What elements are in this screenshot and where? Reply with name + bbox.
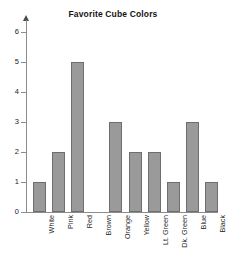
x-axis-category-label: Orange: [121, 215, 134, 271]
y-axis-tick-label: 6: [6, 28, 19, 36]
bar: [33, 182, 46, 212]
x-axis-line: [25, 212, 218, 213]
y-axis-tick-label: 1: [6, 178, 19, 186]
x-axis-category-label: Blue: [197, 215, 210, 271]
bar: [71, 62, 84, 212]
y-axis-tick: [21, 212, 26, 213]
chart-title: Favorite Cube Colors: [0, 9, 226, 19]
bar-chart: Favorite Cube Colors 0123456 WhitePinkRe…: [0, 0, 226, 275]
y-axis-tick-label: 5: [6, 58, 19, 66]
bar: [52, 152, 65, 212]
x-axis-category-label: Brown: [102, 215, 115, 271]
x-axis-category-label: Red: [83, 215, 96, 271]
x-axis-category-label: Pink: [64, 215, 77, 271]
bar: [186, 122, 199, 212]
y-axis-tick-label: 0: [6, 208, 19, 216]
x-axis-category-label: White: [45, 215, 58, 271]
bar: [109, 122, 122, 212]
x-axis-category-label: Dk. Green: [178, 215, 191, 271]
bar: [148, 152, 161, 212]
bars-group: [26, 32, 218, 212]
x-axis-labels: WhitePinkRedBrownOrangeYellowLt. GreenDk…: [26, 215, 218, 273]
bar: [129, 152, 142, 212]
y-axis-tick-label: 3: [6, 118, 19, 126]
bar: [167, 182, 180, 212]
x-axis-category-label: Yellow: [140, 215, 153, 271]
x-axis-category-label: Black: [216, 215, 226, 271]
y-axis-tick-label: 2: [6, 148, 19, 156]
y-axis-tick-label: 4: [6, 88, 19, 96]
bar: [205, 182, 218, 212]
x-axis-category-label: Lt. Green: [159, 215, 172, 271]
